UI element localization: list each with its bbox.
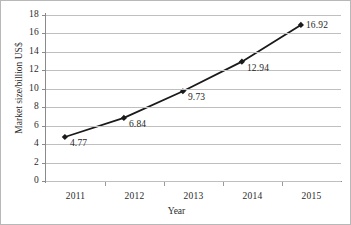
y-tick-mark-0	[42, 181, 46, 182]
data-point-label-2014: 12.94	[247, 63, 269, 73]
gridline-y-16	[46, 33, 341, 34]
data-point-label-2015: 16.92	[306, 20, 328, 30]
gridline-y-4	[46, 144, 341, 145]
gridline-y-10	[46, 89, 341, 90]
data-point-label-2011: 4.77	[70, 138, 87, 148]
data-point-label-2013: 9.73	[188, 92, 205, 102]
y-tick-mark-16	[42, 33, 46, 34]
x-tick-label-2012: 2012	[105, 191, 165, 201]
x-axis-title: Year	[1, 206, 351, 216]
y-tick-mark-6	[42, 126, 46, 127]
gridline-y-0	[46, 181, 341, 182]
gridline-y-2	[46, 163, 341, 164]
y-tick-mark-18	[42, 15, 46, 16]
y-tick-mark-4	[42, 144, 46, 145]
y-axis-title: Market size/billion US$	[14, 8, 24, 168]
y-tick-mark-8	[42, 107, 46, 108]
gridline-y-12	[46, 70, 341, 71]
x-tick-label-2015: 2015	[282, 191, 342, 201]
chart-figure: 024681012141618 20112012201320142015 4.7…	[0, 0, 351, 225]
x-tick-mark-1	[105, 182, 106, 186]
x-tick-mark-3	[223, 182, 224, 186]
x-tick-mark-4	[282, 182, 283, 186]
data-point-marker-2011	[62, 134, 68, 140]
x-tick-label-2013: 2013	[164, 191, 224, 201]
gridline-y-14	[46, 52, 341, 53]
x-tick-label-2011: 2011	[46, 191, 106, 201]
series-polyline	[65, 25, 301, 137]
y-tick-mark-2	[42, 163, 46, 164]
gridline-y-6	[46, 126, 341, 127]
x-tick-label-2014: 2014	[223, 191, 283, 201]
y-tick-mark-10	[42, 89, 46, 90]
x-tick-mark-2	[164, 182, 165, 186]
y-tick-mark-14	[42, 52, 46, 53]
gridline-y-8	[46, 107, 341, 108]
data-point-marker-2012	[121, 115, 127, 121]
y-tick-label-0: 0	[5, 176, 39, 185]
series-markers	[62, 22, 304, 140]
gridline-y-18	[46, 15, 341, 16]
data-point-label-2012: 6.84	[129, 119, 146, 129]
y-tick-mark-12	[42, 70, 46, 71]
